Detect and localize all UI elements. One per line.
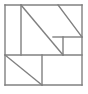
figure-container xyxy=(0,0,88,94)
geometric-figure xyxy=(0,0,88,94)
outer-square-fill xyxy=(5,5,82,85)
